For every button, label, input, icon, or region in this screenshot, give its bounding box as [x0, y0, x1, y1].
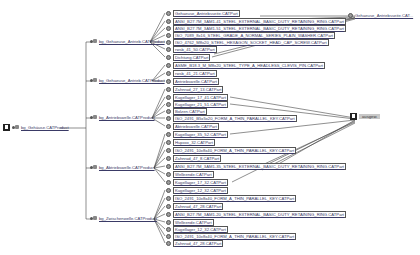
leaf-part-label[interactable]: ANSI_B27.7M_3AM1-20_STEEL_EXTERNAL_BASIC…: [173, 211, 346, 218]
subassembly-node[interactable]: bg_Zwischenwelle.CATProduct: [90, 216, 157, 221]
product-root-icon: [3, 124, 10, 131]
part-icon: [166, 172, 171, 177]
leaf-part-node[interactable]: ISO_2491_10x8x40_FORM_A_THIN_PARALLEL_KE…: [166, 147, 296, 154]
leaf-part-label[interactable]: Antriebswelle.CATPart: [173, 78, 219, 85]
leaf-part-node[interactable]: ANSI_B27.7M_3AM1-35_STEEL_EXTERNAL_BASIC…: [166, 163, 346, 170]
subassembly-label[interactable]: bg_Antriebswelle.CATProduct: [99, 115, 155, 120]
leaf-part-label[interactable]: ISO_2491_10x8x40_FORM_A_THIN_PARALLEL_KE…: [173, 147, 296, 154]
leaf-part-node[interactable]: ANSI_B27.7M_3AM1-51_STEEL_EXTERNAL_BASIC…: [166, 25, 346, 32]
leaf-part-label[interactable]: rwsb_41_50.CATPart: [173, 46, 217, 53]
leaf-part-label[interactable]: Kugellager_17_32.CATPart: [173, 179, 228, 186]
leaf-part-label[interactable]: Zahnrad_47_28.CATPart: [173, 240, 223, 247]
subassembly-label[interactable]: bg_Abtriebswelle.CATProduct: [99, 165, 155, 170]
leaf-part-label[interactable]: ANSI_B27.7M_3AM1-41_STEEL_EXTERNAL_BASIC…: [173, 18, 346, 25]
assembly-icon: [90, 39, 97, 44]
leaf-part-label[interactable]: ANSI_B27.7M_3AM1-51_STEEL_EXTERNAL_BASIC…: [173, 25, 346, 32]
leaf-part-label[interactable]: ISO_4762_M8x20_STEEL_HEXAGON_SOCKET_HEAD…: [173, 39, 329, 46]
part-icon: [166, 212, 171, 217]
leaf-part-label[interactable]: Kugellager_12_32.CATPart: [173, 226, 228, 233]
leaf-part-node[interactable]: ASME_B18.3_M_M8x20_STEEL_TYPE_A_HEADLESS…: [166, 62, 325, 69]
subassembly-label[interactable]: bg_Gehaeuse_Antrieb.CATProduct: [99, 78, 165, 83]
leaf-part-node[interactable]: Zahnrad_47_28.CATPart: [166, 203, 223, 210]
assembly-icon: [90, 165, 97, 170]
assembly-icon: [90, 216, 97, 221]
leaf-part-label[interactable]: ISO_2491_B5x5x20_FORM_A_THIN_PARALLEL_KE…: [173, 115, 297, 122]
leaf-part-label[interactable]: ISO_7089_8x16_STEEL_GRADE_A_NORMAL_SERIE…: [173, 32, 335, 39]
part-icon: [166, 33, 171, 38]
part-icon: [166, 19, 171, 24]
part-icon: [166, 204, 171, 209]
part-icon: [166, 156, 171, 161]
leaf-part-node[interactable]: Zahnrad_47_8.CATPart: [166, 155, 221, 162]
root-node[interactable]: bg_Gehäuse.CATProduct: [3, 124, 69, 131]
subassembly-node[interactable]: bg_Gehaeuse_Antrieb.CATProduct: [90, 78, 165, 83]
root-label[interactable]: bg_Gehäuse.CATProduct: [21, 125, 69, 130]
leaf-part-node[interactable]: rwsb_41_50.CATPart: [166, 46, 217, 53]
leaf-part-node[interactable]: Kugellager_12_32.CATPart: [166, 187, 228, 194]
assembly-icon: [12, 125, 19, 130]
leaf-part-label[interactable]: ASME_B18.3_M_M8x20_STEEL_TYPE_A_HEADLESS…: [173, 62, 325, 69]
subassembly-label[interactable]: bg_Gehaeuse_Antrieb.CATProduct: [99, 39, 165, 44]
leaf-part-label[interactable]: Bolzen.CATPart: [173, 108, 207, 115]
subassembly-node[interactable]: bg_Gehaeuse_Antrieb.CATProduct: [90, 39, 165, 44]
leaf-part-node[interactable]: ISO_2491_10x8x40_FORM_A_THIN_PARALLEL_KE…: [166, 233, 296, 240]
leaf-part-node[interactable]: Abtriebswelle.CATPart: [166, 123, 219, 130]
part-icon: [166, 55, 171, 60]
leaf-part-node[interactable]: rwsb_41_21.CATPart: [166, 70, 217, 77]
leaf-part-node[interactable]: Kugellager_17_41.CATPart: [166, 94, 228, 101]
leaf-part-node[interactable]: Antriebswelle.CATPart: [166, 78, 219, 85]
leaf-part-label[interactable]: Zahnrad_47_28.CATPart: [173, 203, 223, 210]
part-icon: [166, 63, 171, 68]
leaf-part-label[interactable]: Welleende.CATPart: [173, 219, 214, 226]
part-icon: [166, 87, 171, 92]
leaf-part-node[interactable]: Kugellager_35_52.CATPart: [166, 131, 228, 138]
leaf-part-node[interactable]: ANSI_B27.7M_3AM1-41_STEEL_EXTERNAL_BASIC…: [166, 18, 346, 25]
leaf-part-node[interactable]: ISO_4762_M8x20_STEEL_HEXAGON_SOCKET_HEAD…: [166, 39, 329, 46]
part-icon: [166, 241, 171, 246]
part-icon: [166, 26, 171, 31]
leaf-part-label[interactable]: Kugellager_12_32.CATPart: [173, 187, 228, 194]
leaf-part-node[interactable]: ISO_2491_B5x5x20_FORM_A_THIN_PARALLEL_KE…: [166, 115, 297, 122]
leaf-part-label[interactable]: ISO_2491_10x8x40_FORM_A_THIN_PARALLEL_KE…: [173, 233, 296, 240]
leaf-part-node[interactable]: Welleende.CATPart: [166, 219, 214, 226]
leaf-part-label[interactable]: Gehaeuse_Antriebsseite.CATPart: [173, 10, 240, 17]
leaf-part-label[interactable]: Hupxxx_32.CATPart: [173, 139, 215, 146]
leaf-part-node[interactable]: Bolzen.CATPart: [166, 108, 207, 115]
leaf-part-node[interactable]: Kugellager_12_32.CATPart: [166, 226, 228, 233]
leaf-part-label[interactable]: Kugellager_21_51.CATPart: [173, 101, 228, 108]
part-icon: [166, 116, 171, 121]
leaf-part-label[interactable]: rwsb_41_21.CATPart: [173, 70, 217, 77]
leaf-part-label[interactable]: ANSI_B27.7M_3AM1-35_STEEL_EXTERNAL_BASIC…: [173, 163, 346, 170]
leaf-part-label[interactable]: Dichtung.CATPart: [173, 54, 210, 61]
leaf-part-node[interactable]: ISO_2491_10x8x40_FORM_A_THIN_PARALLEL_KE…: [166, 195, 296, 202]
leaf-part-label[interactable]: Zahnrad_47_8.CATPart: [173, 155, 221, 162]
leaf-part-node[interactable]: Gehaeuse_Antriebsseite.CATPart: [166, 10, 240, 17]
leaf-part-label[interactable]: ISO_2491_10x8x40_FORM_A_THIN_PARALLEL_KE…: [173, 195, 296, 202]
selected-target-label[interactable]: ausgew.: [359, 114, 380, 119]
target-part-label[interactable]: Gehaeuse_Antriebsseite.CAT...: [355, 13, 413, 18]
leaf-part-node[interactable]: Zahnrad_47_28.CATPart: [166, 240, 223, 247]
leaf-part-label[interactable]: Kugellager_17_41.CATPart: [173, 94, 228, 101]
leaf-part-node[interactable]: Kugellager_17_32.CATPart: [166, 179, 228, 186]
subassembly-label[interactable]: bg_Zwischenwelle.CATProduct: [99, 216, 157, 221]
leaf-part-label[interactable]: Kugellager_35_52.CATPart: [173, 131, 228, 138]
part-icon: [166, 102, 171, 107]
part-icon: [166, 124, 171, 129]
target-part-node[interactable]: Gehaeuse_Antriebsseite.CAT...: [348, 13, 413, 18]
leaf-part-node[interactable]: Dichtung.CATPart: [166, 54, 210, 61]
leaf-part-label[interactable]: Zahnrad_27_13.CATPart: [173, 86, 223, 93]
subassembly-node[interactable]: bg_Antriebswelle.CATProduct: [90, 115, 155, 120]
selected-target-node[interactable]: ausgew.: [350, 113, 380, 120]
leaf-part-node[interactable]: Kugellager_21_51.CATPart: [166, 101, 228, 108]
part-icon: [348, 13, 353, 18]
leaf-part-label[interactable]: Abtriebswelle.CATPart: [173, 123, 219, 130]
leaf-part-node[interactable]: Zahnrad_27_13.CATPart: [166, 86, 223, 93]
subassembly-node[interactable]: bg_Abtriebswelle.CATProduct: [90, 165, 155, 170]
leaf-part-node[interactable]: ISO_7089_8x16_STEEL_GRADE_A_NORMAL_SERIE…: [166, 32, 335, 39]
leaf-part-label[interactable]: Welleende.CATPart: [173, 171, 214, 178]
leaf-part-node[interactable]: ANSI_B27.7M_3AM1-20_STEEL_EXTERNAL_BASIC…: [166, 211, 346, 218]
leaf-part-node[interactable]: Hupxxx_32.CATPart: [166, 139, 215, 146]
part-icon: [166, 40, 171, 45]
leaf-part-node[interactable]: Welleende.CATPart: [166, 171, 214, 178]
part-icon: [166, 11, 171, 16]
